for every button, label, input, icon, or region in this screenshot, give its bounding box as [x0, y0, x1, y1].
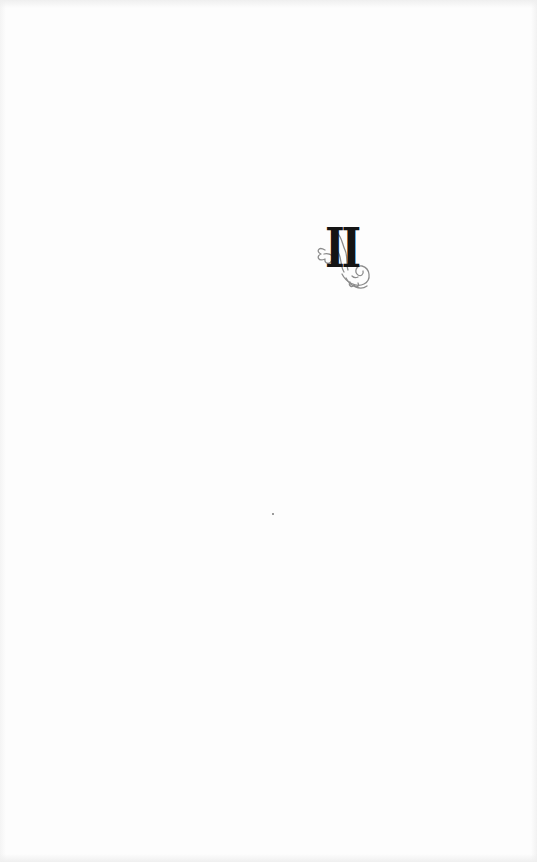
- paper-speck: [272, 513, 274, 515]
- chapter-heading: II: [312, 220, 374, 292]
- chapter-numeral: II: [325, 220, 353, 276]
- book-page: II: [0, 0, 537, 862]
